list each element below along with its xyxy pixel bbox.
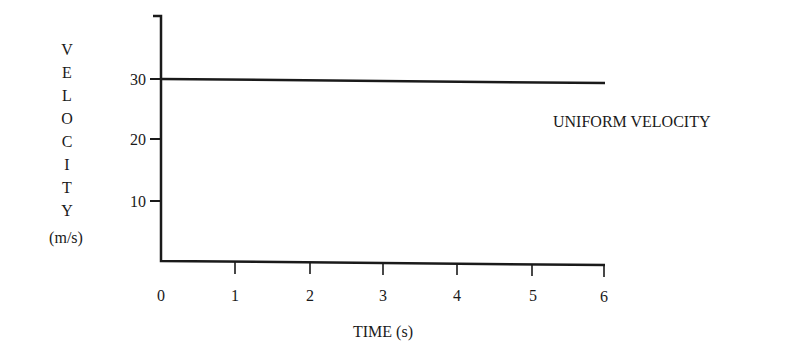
chart: V E L O C I T Y (m/s) 30 20 10 0 1 2 3 4… — [0, 0, 808, 363]
x-tick-labels: 0 1 2 3 4 5 6 — [157, 287, 608, 305]
y-label-letter: Y — [61, 202, 73, 219]
y-label-letter: I — [64, 156, 69, 173]
y-axis-label: V E L O C I T Y (m/s) — [49, 41, 83, 247]
x-tick-label: 5 — [529, 287, 537, 304]
x-tick-label: 1 — [231, 287, 239, 304]
y-label-letter: T — [62, 179, 72, 196]
velocity-line — [161, 79, 605, 83]
axes — [150, 16, 605, 277]
y-label-letter: C — [62, 133, 73, 150]
y-tick-labels: 30 20 10 — [130, 71, 146, 210]
y-label-letter: O — [61, 110, 73, 127]
annotation-label: UNIFORM VELOCITY — [553, 113, 711, 130]
y-label-letter: L — [62, 87, 72, 104]
y-label-letter: V — [61, 41, 73, 58]
x-tick-label: 6 — [600, 288, 608, 305]
y-tick-label: 20 — [130, 131, 146, 148]
y-tick-label: 30 — [130, 71, 146, 88]
y-tick-label: 10 — [130, 193, 146, 210]
axis-lines — [153, 16, 605, 265]
y-label-unit: (m/s) — [49, 229, 83, 247]
x-tick-label: 2 — [306, 287, 314, 304]
x-tick-label: 3 — [379, 287, 387, 304]
x-axis-label: TIME (s) — [353, 323, 413, 341]
x-tick-label: 4 — [453, 287, 461, 304]
y-label-letter: E — [62, 64, 72, 81]
x-tick-label: 0 — [157, 287, 165, 304]
